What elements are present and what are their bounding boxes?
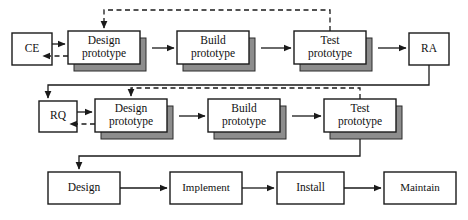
- node-rq: RQ: [39, 101, 77, 132]
- node-test-prototype-1: Test prototype: [294, 31, 372, 71]
- node-implement: Implement: [170, 172, 242, 204]
- node-ce: CE: [12, 33, 52, 65]
- node-test-prototype-2-label-line1: Test: [351, 102, 371, 114]
- node-design-prototype-1-label-line1: Design: [88, 34, 121, 47]
- node-ra-label: RA: [421, 42, 438, 54]
- node-design-prototype-1-label-line2: prototype: [82, 47, 126, 60]
- node-build-prototype-1-label-line2: prototype: [191, 47, 235, 60]
- node-build-prototype-1: Build prototype: [177, 31, 255, 71]
- node-design-label: Design: [68, 181, 101, 194]
- node-ce-label: CE: [25, 42, 40, 54]
- node-implement-label: Implement: [182, 181, 230, 193]
- node-build-prototype-2-label-line2: prototype: [222, 115, 266, 128]
- node-rq-label: RQ: [50, 109, 67, 121]
- node-build-prototype-2: Build prototype: [208, 99, 286, 139]
- edge-test-prototype-2-feedback-to-design-prototype-2: [131, 88, 360, 99]
- node-maintain: Maintain: [384, 172, 456, 204]
- diagram-canvas: CE Design prototype Build prototype Test…: [0, 0, 468, 220]
- edge-test-prototype-2-to-design: [79, 139, 360, 169]
- node-test-prototype-1-label-line1: Test: [321, 34, 341, 46]
- node-design: Design: [48, 172, 120, 204]
- node-design-prototype-2-label-line1: Design: [115, 102, 148, 115]
- node-design-prototype-1: Design prototype: [68, 31, 146, 71]
- node-design-prototype-2-label-line2: prototype: [109, 115, 153, 128]
- node-install: Install: [277, 172, 344, 204]
- node-ra: RA: [409, 33, 449, 65]
- node-test-prototype-2-label-line2: prototype: [338, 115, 382, 128]
- node-design-prototype-2: Design prototype: [95, 99, 173, 139]
- edge-test-prototype-1-feedback-to-design-prototype-1: [104, 10, 330, 31]
- node-test-prototype-1-label-line2: prototype: [308, 47, 352, 60]
- node-build-prototype-2-label-line1: Build: [231, 102, 257, 114]
- process-flow-diagram: CE Design prototype Build prototype Test…: [0, 0, 468, 220]
- node-maintain-label: Maintain: [400, 181, 440, 193]
- node-build-prototype-1-label-line1: Build: [200, 34, 226, 46]
- node-install-label: Install: [296, 181, 325, 193]
- node-test-prototype-2: Test prototype: [324, 99, 402, 139]
